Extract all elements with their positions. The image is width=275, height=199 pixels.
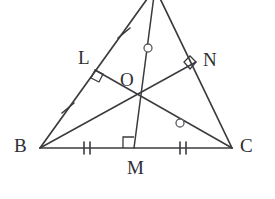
- circle-marker-OC: [176, 119, 184, 127]
- right-angle-markers: [91, 56, 196, 148]
- side-AB-line: [40, 0, 155, 148]
- vertex-label-B: B: [14, 136, 27, 155]
- cevians: [40, 0, 232, 148]
- right-angle-marker-M: [123, 137, 134, 148]
- tick-mark-LA: [118, 28, 130, 38]
- vertex-label-N: N: [203, 50, 217, 69]
- point-label-O: O: [120, 70, 134, 89]
- cevian-AM-line: [134, 0, 155, 148]
- vertex-label-C: C: [240, 136, 253, 155]
- cevian-CL-line: [95, 70, 232, 148]
- cevian-BN-line: [40, 62, 196, 148]
- geometry-figure: B C M L N O: [0, 0, 275, 199]
- vertex-label-M: M: [127, 158, 144, 177]
- triangle-sides: [40, 0, 232, 148]
- tick-mark-BL: [62, 103, 74, 113]
- circle-markers: [144, 44, 184, 127]
- circle-marker-AO: [144, 44, 152, 52]
- vertex-label-L: L: [78, 48, 90, 67]
